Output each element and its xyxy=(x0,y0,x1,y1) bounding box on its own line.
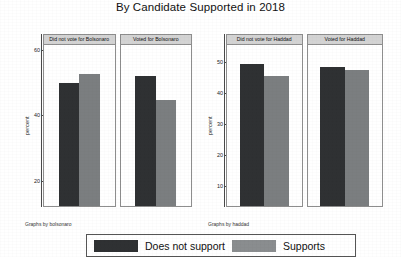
y-tick-40-bolsonaro: 40 xyxy=(34,112,42,118)
plot-area-did-not-vote-haddad xyxy=(227,45,302,206)
y-tick-50-haddad: 50 xyxy=(217,59,225,65)
panel-voted-bolsonaro: Voted for Bolsonaro xyxy=(120,34,193,207)
legend-swatch-supports xyxy=(232,240,276,252)
plot-area-did-not-vote-bolsonaro xyxy=(44,45,115,206)
bar-supports xyxy=(264,76,289,206)
panel-did-not-vote-haddad: Did not vote for Haddad xyxy=(226,34,303,207)
y-axis-bolsonaro: 20 40 60 xyxy=(41,34,42,207)
chart-haddad: percent 10 20 30 40 50 Did not vote for … xyxy=(205,17,385,229)
plot-area-voted-haddad xyxy=(308,45,383,206)
y-tick-20-haddad: 20 xyxy=(217,152,225,158)
legend-item-does-not-support: Does not support xyxy=(87,235,225,256)
panel-title-did-not-vote-haddad: Did not vote for Haddad xyxy=(227,35,302,45)
panel-voted-haddad: Voted for Haddad xyxy=(307,34,384,207)
y-axis-label-bolsonaro: percent xyxy=(24,116,30,135)
legend-label-supports: Supports xyxy=(283,240,325,252)
panels-haddad: Did not vote for Haddad Voted for Haddad xyxy=(226,34,383,207)
y-axis-label-haddad: percent xyxy=(207,116,213,135)
panel-title-voted-bolsonaro: Voted for Bolsonaro xyxy=(121,35,192,45)
bar-does-not-support xyxy=(59,83,79,206)
y-tick-60-bolsonaro: 60 xyxy=(34,47,42,53)
bar-supports xyxy=(79,74,99,206)
caption-bolsonaro: Graphs by bolsonaro xyxy=(25,221,71,227)
panels-bolsonaro: Did not vote for Bolsonaro Voted for Bol… xyxy=(43,34,192,207)
y-tick-10-haddad: 10 xyxy=(217,183,225,189)
panel-did-not-vote-bolsonaro: Did not vote for Bolsonaro xyxy=(43,34,116,207)
bar-supports xyxy=(156,100,176,206)
y-tick-40-haddad: 40 xyxy=(217,90,225,96)
bar-does-not-support xyxy=(240,64,265,206)
chart-bolsonaro: percent 20 40 60 Did not vote for Bolson… xyxy=(22,17,194,229)
chart-legend: Does not support Supports xyxy=(86,234,356,257)
bar-does-not-support xyxy=(135,76,155,206)
plot-area-voted-bolsonaro xyxy=(121,45,192,206)
caption-haddad: Graphs by haddad xyxy=(208,221,249,227)
legend-item-supports: Supports xyxy=(225,235,325,256)
legend-label-does-not-support: Does not support xyxy=(145,240,225,252)
y-axis-haddad: 10 20 30 40 50 xyxy=(224,34,225,207)
panel-title-did-not-vote-bolsonaro: Did not vote for Bolsonaro xyxy=(44,35,115,45)
page-title: By Candidate Supported in 2018 xyxy=(0,1,401,13)
bar-supports xyxy=(345,70,370,206)
bar-does-not-support xyxy=(320,67,345,206)
y-tick-20-bolsonaro: 20 xyxy=(34,178,42,184)
y-tick-30-haddad: 30 xyxy=(217,121,225,127)
panel-title-voted-haddad: Voted for Haddad xyxy=(308,35,383,45)
legend-swatch-does-not-support xyxy=(94,240,138,252)
